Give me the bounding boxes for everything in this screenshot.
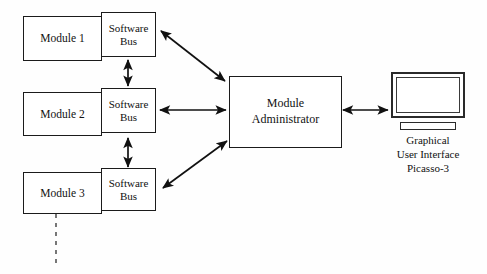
gui-caption-line2: User Interface	[397, 148, 460, 160]
module-administrator-line1: Module	[267, 96, 304, 110]
module-2-box[interactable]: Module 2	[23, 92, 102, 136]
module-1-label: Module 1	[40, 32, 84, 45]
diagram-canvas: Module 1 Software Bus Module 2 Software …	[0, 0, 487, 274]
software-bus-1-line1: Software	[109, 22, 149, 34]
gui-caption-line3: Picasso-3	[407, 162, 449, 174]
software-bus-3-label: Software Bus	[109, 177, 149, 202]
module-1-box[interactable]: Module 1	[23, 16, 102, 61]
module-administrator-label: Module Administrator	[252, 96, 319, 127]
software-bus-3-line2: Bus	[120, 190, 137, 202]
bus1-admin-link	[161, 31, 225, 81]
software-bus-1-box[interactable]: Software Bus	[101, 12, 156, 57]
software-bus-3-line1: Software	[109, 177, 149, 189]
module-2-label: Module 2	[40, 108, 84, 121]
monitor-stand	[400, 122, 456, 130]
software-bus-2-line1: Software	[109, 98, 149, 110]
software-bus-2-label: Software Bus	[109, 98, 149, 123]
software-bus-2-box[interactable]: Software Bus	[101, 88, 156, 133]
software-bus-3-box[interactable]: Software Bus	[101, 168, 156, 211]
software-bus-1-label: Software Bus	[109, 22, 149, 47]
software-bus-1-line2: Bus	[120, 35, 137, 47]
monitor-screen	[396, 77, 460, 113]
module-3-label: Module 3	[40, 187, 84, 200]
module-3-box[interactable]: Module 3	[23, 172, 102, 214]
module-administrator-line2: Administrator	[252, 112, 319, 126]
bus3-admin-link	[163, 141, 227, 188]
module-administrator-box[interactable]: Module Administrator	[229, 76, 342, 148]
gui-caption-line1: Graphical	[406, 134, 449, 146]
software-bus-2-line2: Bus	[120, 111, 137, 123]
gui-caption: Graphical User Interface Picasso-3	[378, 134, 478, 175]
